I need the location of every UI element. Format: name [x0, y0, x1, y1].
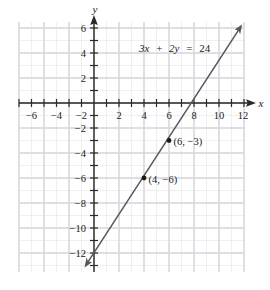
svg-text:3x + 2y: 3x + 2y = 24: [138, 42, 211, 54]
y-tick-label-neg8: −8: [75, 198, 86, 209]
x-tick-label-8: 8: [191, 110, 196, 121]
y-tick-label-4: 4: [81, 48, 87, 59]
point-label-6-neg3: (6, −3): [174, 136, 203, 148]
y-tick-label-2: 2: [81, 73, 86, 84]
y-axis-name: y: [92, 3, 98, 15]
x-tick-label-neg2: −2: [76, 110, 87, 121]
point-marker-6-neg3: [167, 138, 172, 143]
y-tick-label-neg4: −4: [75, 148, 87, 159]
equation-operator-plus: +: [156, 42, 162, 54]
equation-term-3x: 3x: [138, 42, 150, 54]
x-tick-label-12: 12: [238, 110, 249, 121]
x-tick-label-2: 2: [116, 110, 121, 121]
equation-annotation: 3x + 2y = 24: [138, 42, 211, 54]
y-tick-label-6: 6: [81, 23, 86, 34]
x-tick-label-neg4: −4: [51, 110, 63, 121]
y-tick-label-neg6: −6: [75, 173, 86, 184]
equation-constant-24: 24: [199, 42, 211, 54]
x-axis-name: x: [258, 97, 264, 109]
y-tick-label-neg10: −10: [70, 223, 86, 234]
y-tick-label-neg2: −2: [75, 123, 86, 134]
x-tick-label-neg6: −6: [26, 110, 37, 121]
equation-term-2y: 2y: [169, 42, 180, 54]
coordinate-plane-svg: −6 −4 −2 2 4 6 8 10 12 6 4 2 −2 −4 −6 −8…: [0, 0, 270, 290]
equation-operator-equals: =: [186, 42, 192, 54]
point-label-4-neg6: (4, −6): [149, 174, 178, 186]
point-marker-4-neg6: [142, 176, 147, 181]
x-tick-label-6: 6: [166, 110, 171, 121]
x-tick-label-10: 10: [214, 110, 225, 121]
x-tick-label-4: 4: [141, 110, 147, 121]
graph-figure: −6 −4 −2 2 4 6 8 10 12 6 4 2 −2 −4 −6 −8…: [0, 0, 270, 290]
y-tick-label-neg12: −12: [70, 248, 86, 259]
